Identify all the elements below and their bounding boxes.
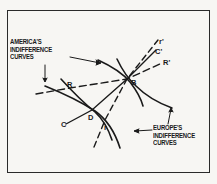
point-b-label: B [131,79,136,87]
line-c-prime-label: C' [155,48,162,56]
arrow-america-2-head [43,78,47,82]
point-d-label: D [88,114,93,122]
america-indifference-label: AMERICA'S INDIFFERENCE CURVES [10,38,52,61]
europe-label-line-3: CURVES [153,139,195,147]
line-R-prime-label: R' [163,59,170,67]
europe-label-line-2: INDIFFERENCE [153,132,195,140]
america-label-line-3: CURVES [10,53,52,61]
point-R-label: R [67,81,72,89]
europe-indifference-label: EUROPE'S INDIFFERENCE CURVES [153,124,195,147]
arrow-europe-1-head [134,129,139,133]
line-r-prime-label: r' [159,38,164,46]
america-label-line-2: INDIFFERENCE [10,46,52,54]
america-label-line-1: AMERICA'S [10,38,52,46]
point-c-label: C [61,121,66,129]
point-r-label: r [104,124,107,132]
diagram-canvas: AMERICA'S INDIFFERENCE CURVES EUROPE'S I… [0,0,217,184]
europe-label-line-1: EUROPE'S [153,124,195,132]
indifference-curves-diagram [0,0,217,184]
